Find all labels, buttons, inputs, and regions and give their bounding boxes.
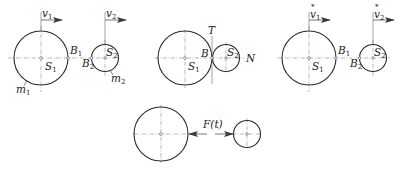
center-body1 xyxy=(160,133,163,136)
label-s1: S1 xyxy=(312,60,324,74)
label-s2: S2 xyxy=(227,46,239,60)
label-n: N xyxy=(245,52,256,64)
contact-point-b2 xyxy=(358,57,360,59)
label-m1: m1 xyxy=(16,83,30,97)
label-b: B xyxy=(200,47,209,59)
center-s1 xyxy=(308,57,311,60)
label-b1: B1 xyxy=(337,44,350,58)
panel-impact-force: F(t) xyxy=(134,105,261,163)
center-s1 xyxy=(184,57,187,60)
contact-point-b1 xyxy=(67,57,70,60)
contact-point-b2 xyxy=(90,57,92,59)
panel-during-impact: S1 T S2 B N xyxy=(155,24,256,88)
panel-before-impact: v1 S1 B1 m1 v2 S2 B2 m2 xyxy=(8,7,126,97)
label-v2: v2 xyxy=(106,7,116,21)
center-body2 xyxy=(246,133,248,135)
label-v1-star: v1 xyxy=(310,8,320,22)
label-s1: S1 xyxy=(45,60,57,74)
contact-point-b1 xyxy=(335,57,338,60)
panel-after-impact: * v1 S1 B1 * v2 S2 B2 xyxy=(277,3,394,92)
label-s2: S2 xyxy=(106,46,118,60)
collision-diagram: v1 S1 B1 m1 v2 S2 B2 m2 S1 T S2 B N xyxy=(0,0,403,171)
label-b1: B1 xyxy=(69,44,82,58)
label-s2: S2 xyxy=(374,46,386,60)
label-v2-star: v2 xyxy=(374,8,384,22)
label-force: F(t) xyxy=(202,118,223,130)
contact-point-b xyxy=(211,57,214,60)
label-m2: m2 xyxy=(111,72,125,86)
label-v1: v1 xyxy=(42,7,52,21)
label-t: T xyxy=(208,24,216,36)
label-s1: S1 xyxy=(188,60,200,74)
center-s1 xyxy=(40,57,43,60)
